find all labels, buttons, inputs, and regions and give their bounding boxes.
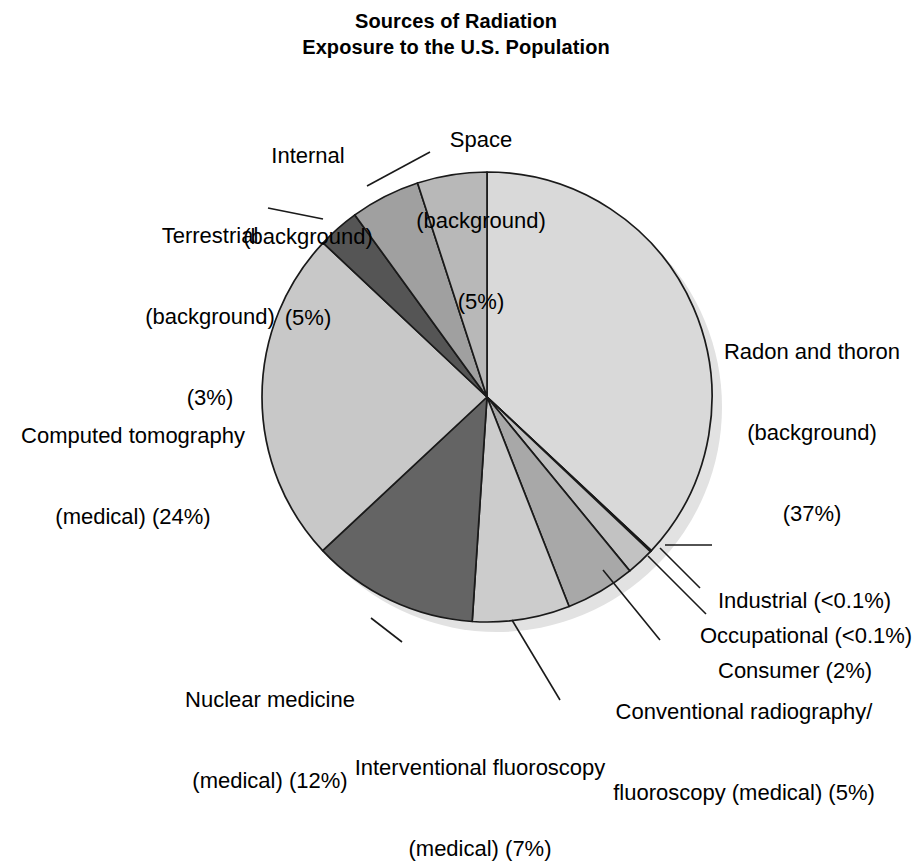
slice-label-radon-line-1: Radon and thoron [712,338,912,365]
slice-label-computed-tomography: Computed tomography (medical) (24%) [8,368,258,584]
slice-label-terrestrial-line-1: Terrestrial [104,222,316,249]
slice-label-radon-line-3: (37%) [712,500,912,527]
slice-label-internal-line-1: Internal [213,142,403,169]
leader-line-intfluoro [512,620,560,700]
slice-label-ct-line-1: Computed tomography [8,422,258,449]
slice-label-terrestrial-line-2: (background) [104,303,316,330]
leader-line-occupational [660,548,700,588]
slice-label-radon-line-2: (background) [712,419,912,446]
slice-label-space: Space (background) (5%) [386,72,576,369]
slice-label-space-line-2: (background) [386,207,576,234]
slice-label-interventional-fluoroscopy: Interventional fluoroscopy (medical) (7%… [312,700,648,865]
slice-label-ct-line-2: (medical) (24%) [8,503,258,530]
slice-label-space-line-1: Space [386,126,576,153]
slice-label-intfluoro-line-1: Interventional fluoroscopy [312,754,648,781]
slice-label-intfluoro-line-2: (medical) (7%) [312,835,648,862]
slice-label-space-line-3: (5%) [386,288,576,315]
